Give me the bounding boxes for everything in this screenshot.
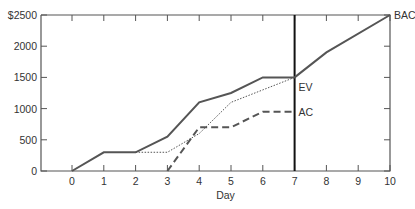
line-chart: 0123456789100500100015002000$2500DayBACE…	[0, 0, 415, 209]
y-tick-label: 1000	[14, 103, 38, 115]
y-tick-label: $2500	[8, 9, 37, 21]
x-tick-label: 1	[101, 175, 107, 187]
x-tick-label: 6	[260, 175, 266, 187]
x-tick-label: 4	[196, 175, 202, 187]
x-tick-label: 8	[323, 175, 329, 187]
y-tick-label: 0	[31, 165, 37, 177]
y-tick-label: 500	[19, 134, 37, 146]
x-tick-label: 7	[292, 175, 298, 187]
x-tick-label: 0	[69, 175, 75, 187]
chart: 0123456789100500100015002000$2500DayBACE…	[0, 0, 415, 209]
x-axis-label: Day	[216, 189, 235, 201]
y-tick-label: 1500	[14, 71, 38, 83]
annotation-bac: BAC	[394, 9, 415, 21]
annotation-ac: AC	[299, 106, 314, 118]
x-tick-label: 3	[164, 175, 170, 187]
y-tick-label: 2000	[14, 40, 38, 52]
series-bac	[72, 15, 390, 171]
x-tick-label: 10	[384, 175, 396, 187]
x-tick-label: 2	[133, 175, 139, 187]
plot-frame	[41, 15, 390, 171]
x-tick-label: 9	[355, 175, 361, 187]
annotation-ev: EV	[299, 81, 313, 93]
x-tick-label: 5	[228, 175, 234, 187]
series-ac	[167, 112, 294, 171]
